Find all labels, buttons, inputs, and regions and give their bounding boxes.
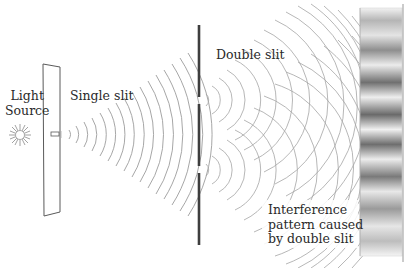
light-source-label-line1: Light: [5, 88, 50, 103]
single-slit-label: Single slit: [70, 88, 133, 103]
single-slit-barrier: [43, 64, 61, 216]
single-slit-waves: [69, 53, 212, 216]
interference-label-line2: pattern caused: [268, 218, 363, 233]
double-slit-diagram: Light Source Single slit Double slit Int…: [0, 0, 409, 268]
light-source-label-line2: Source: [5, 103, 50, 118]
light-source-icon: [9, 124, 31, 146]
interference-screen: [360, 4, 403, 262]
double-slit-label: Double slit: [216, 47, 284, 62]
light-source-label: Light Source: [5, 88, 50, 118]
interference-label-line3: by double slit: [268, 232, 363, 247]
interference-label-line1: Interference: [268, 203, 363, 218]
interference-pattern-label: Interference pattern caused by double sl…: [268, 203, 363, 247]
